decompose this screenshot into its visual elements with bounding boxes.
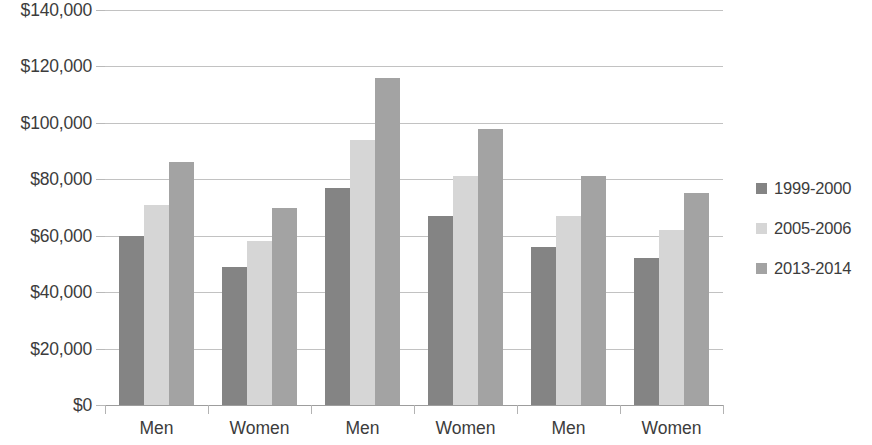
y-axis-tick-mark	[96, 179, 105, 180]
bar	[325, 188, 350, 405]
y-axis-tick-label: $60,000	[0, 225, 92, 246]
y-axis-tick-label: $140,000	[0, 0, 92, 21]
legend-label: 1999-2000	[774, 179, 851, 198]
x-axis-separator	[620, 405, 621, 414]
plot-area	[105, 10, 723, 405]
y-axis-tick-mark	[96, 292, 105, 293]
bar	[531, 247, 556, 405]
bar	[478, 129, 503, 406]
x-axis-category-label: Women	[414, 418, 518, 439]
legend-item[interactable]: 2005-2006	[756, 208, 872, 248]
legend-swatch-icon	[756, 183, 767, 194]
gridline	[105, 66, 723, 67]
bar-group	[119, 10, 194, 405]
gridline	[105, 236, 723, 237]
gridline	[105, 123, 723, 124]
legend-swatch-icon	[756, 223, 767, 234]
y-axis-tick-label: $40,000	[0, 282, 92, 303]
gridline	[105, 10, 723, 11]
x-axis-separator	[414, 405, 415, 414]
y-axis-tick-label: $80,000	[0, 169, 92, 190]
bar-group	[222, 10, 297, 405]
x-axis-category-label: Men	[105, 418, 209, 439]
bar	[119, 236, 144, 405]
y-axis-tick-label: $20,000	[0, 338, 92, 359]
x-axis-category-label: Women	[620, 418, 724, 439]
bar	[272, 208, 297, 406]
bar-group	[325, 10, 400, 405]
y-axis-tick-mark	[96, 236, 105, 237]
legend-label: 2013-2014	[774, 259, 851, 278]
legend-label: 2005-2006	[774, 219, 851, 238]
y-axis-tick-label: $120,000	[0, 56, 92, 77]
bar	[247, 241, 272, 405]
x-axis-separator	[105, 405, 106, 414]
gridline	[105, 179, 723, 180]
x-axis-category-label: Men	[517, 418, 621, 439]
gridline	[105, 292, 723, 293]
bar	[453, 176, 478, 405]
bar	[375, 78, 400, 405]
bar	[144, 205, 169, 405]
x-axis-category-label: Men	[311, 418, 415, 439]
y-axis-tick-mark	[96, 10, 105, 11]
legend: 1999-20002005-20062013-2014	[756, 168, 872, 288]
y-axis-tick-mark	[96, 123, 105, 124]
bar-group	[428, 10, 503, 405]
x-axis-separator	[517, 405, 518, 414]
legend-swatch-icon	[756, 263, 767, 274]
x-axis-separator	[723, 405, 724, 414]
bar	[556, 216, 581, 405]
y-axis-labels: $140,000$120,000$100,000$80,000$60,000$4…	[0, 0, 92, 445]
x-axis-category-label: Women	[208, 418, 312, 439]
y-axis-tick-label: $0	[0, 395, 92, 416]
bar	[684, 193, 709, 405]
bar	[222, 267, 247, 405]
bar-group	[531, 10, 606, 405]
legend-item[interactable]: 2013-2014	[756, 248, 872, 288]
legend-item[interactable]: 1999-2000	[756, 168, 872, 208]
bar	[659, 230, 684, 405]
bar	[428, 216, 453, 405]
y-axis-tick-mark	[96, 405, 105, 406]
x-axis-separator	[208, 405, 209, 414]
x-axis-separator	[311, 405, 312, 414]
y-axis-tick-mark	[96, 66, 105, 67]
bar	[169, 162, 194, 405]
y-axis-tick-mark	[96, 349, 105, 350]
bar-group	[634, 10, 709, 405]
bar	[350, 140, 375, 405]
gridline	[105, 349, 723, 350]
bar	[581, 176, 606, 405]
bar-chart: $140,000$120,000$100,000$80,000$60,000$4…	[0, 0, 872, 445]
bar	[634, 258, 659, 405]
y-axis-tick-label: $100,000	[0, 112, 92, 133]
